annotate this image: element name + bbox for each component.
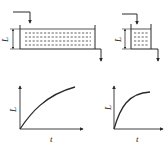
tank-response-diagram: L L L t L t	[0, 0, 165, 148]
response-curve-left	[20, 87, 75, 129]
tank-left: L	[0, 12, 101, 61]
level-label-right: L	[113, 37, 123, 43]
response-curve-right	[114, 92, 150, 129]
ylabel-left: L	[8, 107, 18, 113]
tank-right: L	[113, 14, 158, 61]
outflow-pipe-left	[95, 49, 101, 61]
inflow-pipe-left	[13, 12, 30, 23]
level-label-left: L	[0, 37, 10, 43]
inflow-pipe-right	[122, 14, 137, 24]
plot-right: L t	[103, 86, 163, 144]
xlabel-left: t	[50, 134, 53, 144]
xlabel-right: t	[136, 134, 139, 144]
water-right	[134, 33, 148, 45]
ylabel-right: L	[103, 105, 113, 111]
outflow-pipe-right	[151, 49, 158, 61]
plot-left: L t	[8, 86, 83, 144]
water-left	[25, 33, 91, 45]
